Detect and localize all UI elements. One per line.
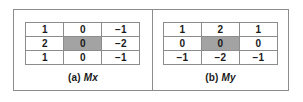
matrix-cell: 0 xyxy=(64,51,102,65)
caption-index: (b) xyxy=(205,72,218,83)
matrix-row: 1 0 −1 xyxy=(26,51,140,65)
caption-symbol: My xyxy=(222,72,236,83)
matrix-row: 1 2 1 xyxy=(163,23,277,37)
matrix-cell: 0 xyxy=(64,23,102,37)
caption-mx: (a) Mx xyxy=(68,72,98,83)
matrix-cell: 0 xyxy=(163,37,201,51)
matrix-cell: −2 xyxy=(201,51,239,65)
caption-symbol: Mx xyxy=(84,72,98,83)
matrix-my: 1 2 1 0 0 0 −1 −2 −1 xyxy=(163,22,278,65)
matrix-cell: −2 xyxy=(102,37,140,51)
matrix-row: 0 0 0 xyxy=(163,37,277,51)
caption-index: (a) xyxy=(68,72,81,83)
matrix-row: 2 0 −2 xyxy=(26,37,140,51)
matrix-cell-center-highlight: 0 xyxy=(201,37,239,51)
matrix-cell: 1 xyxy=(26,23,64,37)
matrix-cell: 2 xyxy=(26,37,64,51)
matrix-cell: −1 xyxy=(102,51,140,65)
caption-my: (b) My xyxy=(205,72,236,83)
figure-frame: 1 0 −1 2 0 −2 1 0 −1 (a) Mx xyxy=(13,9,289,91)
matrix-cell: −1 xyxy=(163,51,201,65)
matrix-cell: 2 xyxy=(201,23,239,37)
matrix-cell: 1 xyxy=(163,23,201,37)
panel-my: 1 2 1 0 0 0 −1 −2 −1 (b) My xyxy=(152,10,288,90)
matrix-cell: −1 xyxy=(239,51,277,65)
matrix-cell: 0 xyxy=(239,37,277,51)
matrix-cell: 1 xyxy=(26,51,64,65)
matrix-row: 1 0 −1 xyxy=(26,23,140,37)
matrix-cell: −1 xyxy=(102,23,140,37)
matrix-row: −1 −2 −1 xyxy=(163,51,277,65)
panel-mx: 1 0 −1 2 0 −2 1 0 −1 (a) Mx xyxy=(14,10,152,90)
matrix-mx: 1 0 −1 2 0 −2 1 0 −1 xyxy=(25,22,140,65)
matrix-cell-center-highlight: 0 xyxy=(64,37,102,51)
matrix-cell: 1 xyxy=(239,23,277,37)
